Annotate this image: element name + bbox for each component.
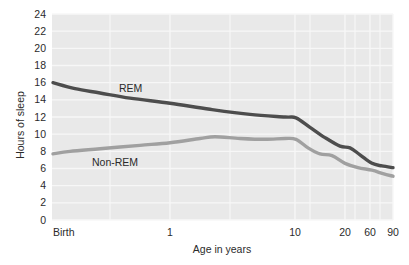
chart-svg: 024681012141618202224 Birth110206090 REM… <box>0 0 409 265</box>
x-tick-label: 60 <box>364 226 376 238</box>
y-tick-label: 24 <box>34 8 46 20</box>
y-axis-tick-labels: 024681012141618202224 <box>34 8 46 226</box>
sleep-chart-figure: 024681012141618202224 Birth110206090 REM… <box>0 0 409 265</box>
y-tick-label: 8 <box>40 145 46 157</box>
y-tick-label: 18 <box>34 59 46 71</box>
x-tick-label: 10 <box>289 226 301 238</box>
y-tick-label: 22 <box>34 25 46 37</box>
y-tick-label: 0 <box>40 214 46 226</box>
x-tick-label: 90 <box>387 226 399 238</box>
y-tick-label: 20 <box>34 42 46 54</box>
x-axis-tick-labels: Birth110206090 <box>53 226 399 238</box>
nonrem-series-label: Non-REM <box>92 156 138 168</box>
x-axis-title: Age in years <box>193 243 251 255</box>
x-tick-label: 20 <box>339 226 351 238</box>
x-tick-label: Birth <box>53 226 75 238</box>
y-tick-label: 14 <box>34 93 46 105</box>
y-axis-title: Hours of sleep <box>14 91 26 159</box>
y-tick-label: 6 <box>40 162 46 174</box>
y-tick-label: 10 <box>34 128 46 140</box>
y-tick-label: 4 <box>40 179 46 191</box>
x-tick-label: 1 <box>167 226 173 238</box>
y-tick-label: 16 <box>34 76 46 88</box>
y-tick-label: 2 <box>40 196 46 208</box>
y-tick-label: 12 <box>34 111 46 123</box>
rem-series-label: REM <box>119 82 142 94</box>
